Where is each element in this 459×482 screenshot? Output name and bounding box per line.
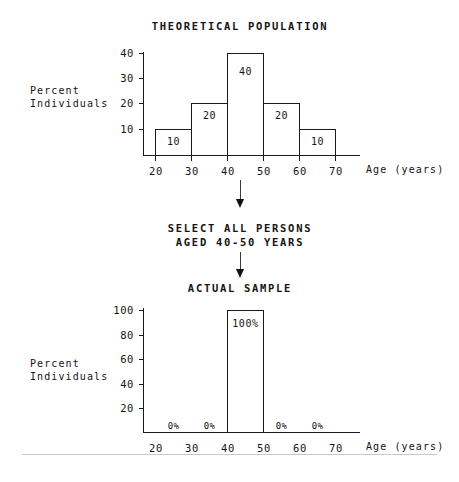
top-chart-y-axis-label-line1: Percent <box>30 85 80 96</box>
bottom-chart-y-tick-mark <box>139 359 144 360</box>
top-chart-bar-label: 10 <box>299 136 336 147</box>
bottom-chart-y-axis-line <box>143 308 144 433</box>
bottom-chart-bar-label: 100% <box>227 318 264 329</box>
bottom-chart-title: ACTUAL SAMPLE <box>160 282 320 294</box>
top-chart-y-tick-label: 40 <box>106 47 134 59</box>
top-chart-y-axis-line <box>143 52 144 156</box>
top-chart-y-tick-label: 10 <box>106 123 134 135</box>
top-chart-x-tick-label: 30 <box>176 165 208 177</box>
bottom-chart-y-tick-mark <box>139 335 144 336</box>
bottom-chart-bar-label: 0% <box>263 421 300 431</box>
top-chart-bar-label: 20 <box>191 110 228 121</box>
bottom-chart-y-tick-mark <box>139 408 144 409</box>
bottom-chart-x-tick-label: 70 <box>320 442 352 454</box>
bottom-chart-x-tick-label: 60 <box>284 442 316 454</box>
bottom-chart-bar-label: 0% <box>299 421 336 431</box>
top-chart-x-tick-mark <box>263 156 264 161</box>
down-arrow-icon <box>236 199 244 208</box>
page-bottom-rule <box>22 454 437 455</box>
bottom-chart-x-tick-label: 20 <box>140 442 172 454</box>
bottom-chart-x-tick-label: 50 <box>248 442 280 454</box>
top-chart-y-tick-mark <box>139 53 144 54</box>
top-chart-x-tick-label: 50 <box>248 165 280 177</box>
bottom-chart-y-axis-label-line2: Individuals <box>30 371 108 382</box>
top-chart-y-tick-mark <box>139 103 144 104</box>
bottom-chart-y-tick-label: 60 <box>100 353 134 365</box>
bottom-chart-y-tick-mark <box>139 384 144 385</box>
top-chart-x-axis-label: Age (years) <box>366 164 444 175</box>
top-chart-bar-label: 40 <box>227 66 264 77</box>
bottom-chart-x-tick-label: 40 <box>212 442 244 454</box>
top-chart-x-tick-mark <box>299 156 300 161</box>
bottom-chart-x-axis-label: Age (years) <box>366 441 444 452</box>
bottom-chart-y-tick-mark <box>139 310 144 311</box>
bottom-chart-y-tick-label: 80 <box>100 329 134 341</box>
bottom-chart-bar-label: 0% <box>191 421 228 431</box>
top-chart-bar-label: 10 <box>155 136 192 147</box>
top-chart-x-tick-mark <box>227 156 228 161</box>
top-chart-x-tick-label: 60 <box>284 165 316 177</box>
top-chart-x-tick-mark <box>191 156 192 161</box>
top-chart-y-tick-mark <box>139 129 144 130</box>
top-chart-x-tick-label: 40 <box>212 165 244 177</box>
bottom-chart-y-tick-label: 40 <box>100 378 134 390</box>
top-chart-y-tick-label: 20 <box>106 97 134 109</box>
down-arrow-icon <box>236 269 244 278</box>
bottom-chart-y-axis-label-line1: Percent <box>30 358 80 369</box>
top-chart-x-tick-label: 20 <box>140 165 172 177</box>
figure-canvas: THEORETICAL POPULATION Percent Individua… <box>0 0 459 482</box>
top-chart-y-axis-label-line2: Individuals <box>30 98 108 109</box>
bottom-chart-y-tick-label: 20 <box>100 402 134 414</box>
top-chart-x-tick-mark <box>335 156 336 161</box>
bottom-chart-y-tick-label: 100 <box>100 304 134 316</box>
flow-instruction-line1: SELECT ALL PERSONS <box>140 221 340 235</box>
flow-instruction-line2: AGED 40-50 YEARS <box>140 235 340 249</box>
top-chart-y-tick-label: 30 <box>106 72 134 84</box>
top-chart-bar-label: 20 <box>263 110 300 121</box>
top-chart-x-tick-label: 70 <box>320 165 352 177</box>
top-chart-x-tick-mark <box>155 156 156 161</box>
bottom-chart-x-tick-label: 30 <box>176 442 208 454</box>
top-chart-y-tick-mark <box>139 78 144 79</box>
top-chart-title: THEORETICAL POPULATION <box>130 20 350 32</box>
bottom-chart-bar-label: 0% <box>155 421 192 431</box>
